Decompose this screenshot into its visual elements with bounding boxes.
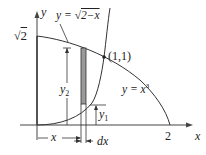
y1-arrow-icon (94, 105, 98, 110)
intersection-label: (1,1) (108, 50, 131, 62)
diagram-canvas (0, 0, 206, 155)
dx-arrow-icon (86, 139, 91, 143)
dx-label: dx (97, 135, 108, 147)
upper-curve-label: y = √2−x (56, 10, 100, 22)
x-axis-label: x (195, 130, 200, 142)
x-dimension-label: x (51, 131, 56, 143)
label-leader-line (60, 24, 68, 42)
x-axis-arrow-icon (186, 123, 193, 128)
y-axis-arrow-icon (35, 11, 40, 18)
y2-label: y2 (60, 83, 69, 98)
y2-arrow-icon (65, 48, 69, 53)
x-value-2-label: 2 (165, 130, 171, 142)
y1-label: y1 (99, 108, 108, 123)
dx-arrow-left-icon (76, 139, 81, 143)
strip-rectangle (81, 48, 86, 104)
intersection-point (102, 55, 106, 59)
y-axis-label: y (41, 6, 46, 18)
sqrt2-label: √2 (14, 29, 27, 42)
lower-curve-label: y = x3 (122, 83, 149, 95)
